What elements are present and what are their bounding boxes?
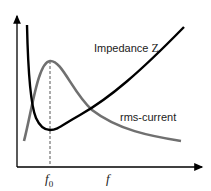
rms-current-label: rms-current — [120, 112, 176, 123]
f-axis-label: f — [106, 172, 110, 185]
f0-tick-label: f0 — [45, 172, 53, 189]
impedance-label: Impedance Z — [94, 42, 159, 54]
plot-area — [0, 0, 211, 191]
resonance-diagram: Impedance Z rms-current f0 f — [0, 0, 211, 191]
